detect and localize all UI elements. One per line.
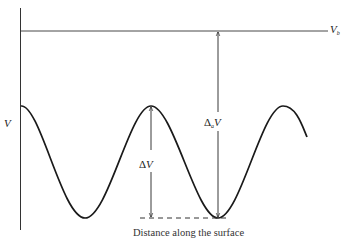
potential-diagram: Vb V ΔaV ΔV Distance along the surface [0, 0, 348, 245]
vb-label: Vb [330, 24, 340, 36]
delta-a-v-label: ΔaV [204, 117, 221, 129]
delta-v-main: V [146, 158, 153, 170]
potential-curve [21, 106, 307, 218]
v-axis-label: V [4, 118, 11, 129]
delta-a-v-main: V [214, 116, 221, 128]
x-axis-label: Distance along the surface [133, 228, 244, 239]
delta-v-label: ΔV [139, 158, 153, 171]
vb-label-main: V [330, 23, 337, 35]
vb-label-sub: b [337, 30, 340, 36]
diagram-canvas [0, 0, 348, 245]
